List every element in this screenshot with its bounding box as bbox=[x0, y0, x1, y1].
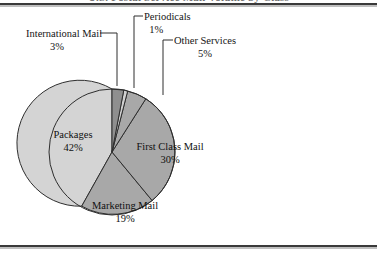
callout-periodicals: Periodicals 1% bbox=[144, 11, 191, 36]
callout-international-mail-value: 3% bbox=[26, 41, 102, 54]
slice-label-packages: Packages 42% bbox=[33, 128, 113, 154]
callout-international-mail: International Mail 3% bbox=[26, 28, 102, 53]
leader-line-periodicals bbox=[134, 16, 143, 88]
callout-other-services-label: Other Services bbox=[174, 35, 236, 46]
leader-line-international-mail bbox=[100, 33, 117, 86]
slice-label-first-class-mail: First Class Mail 30% bbox=[124, 140, 216, 166]
callout-international-mail-label: International Mail bbox=[26, 28, 102, 39]
callout-other-services: Other Services 5% bbox=[174, 35, 236, 60]
pie-chart-figure: U.S. Postal Service Mail Volume by Class… bbox=[0, 0, 377, 261]
slice-label-packages-value: 42% bbox=[63, 142, 82, 153]
slice-label-marketing-mail-value: 19% bbox=[115, 213, 134, 224]
slice-label-marketing-mail: Marketing Mail 19% bbox=[77, 199, 173, 225]
callout-periodicals-label: Periodicals bbox=[144, 11, 191, 22]
slice-label-packages-name: Packages bbox=[53, 129, 92, 140]
slice-label-first-class-mail-value: 30% bbox=[160, 154, 179, 165]
leader-line-other-services bbox=[163, 40, 173, 95]
slice-label-first-class-mail-name: First Class Mail bbox=[136, 141, 203, 152]
slice-label-marketing-mail-name: Marketing Mail bbox=[92, 200, 158, 211]
bottom-rule bbox=[0, 245, 377, 247]
callout-other-services-value: 5% bbox=[174, 48, 236, 61]
